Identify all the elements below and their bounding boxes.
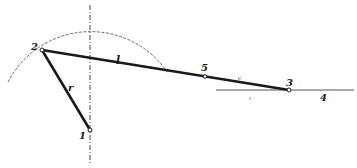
guide-label-4: 4 [320,92,327,103]
guide-tick: ı [249,94,251,101]
joint-5 [203,75,207,79]
point-label-3: 3 [286,77,293,88]
point-label-5: 5 [201,62,208,73]
coupler-link-l [42,50,289,90]
joint-3 [287,88,291,92]
point-label-1: 1 [79,130,86,141]
link-label-l: l [116,54,120,67]
joint-1 [88,128,92,132]
point-label-2: 2 [30,41,38,52]
crank-link-r [42,50,90,130]
link-label-r: r [68,82,74,93]
diagram-canvas: 2 1 5 3 r l 4 c ı [0,0,357,168]
joint-2 [40,48,44,52]
coupler-mark: c [238,74,242,81]
linkage-diagram: 2 1 5 3 r l 4 c ı [0,0,357,168]
